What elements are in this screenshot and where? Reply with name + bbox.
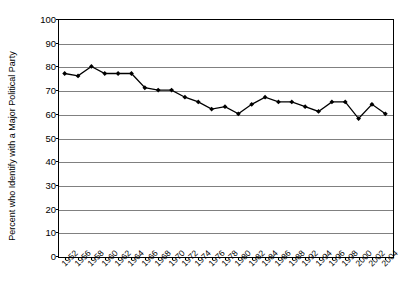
y-axis-tick-label: 70 (4, 86, 56, 95)
y-axis-tick-label: 40 (4, 157, 56, 166)
y-axis-tick-label: 10 (4, 228, 56, 237)
data-point-marker (156, 88, 161, 93)
data-point-marker (209, 107, 214, 112)
data-point-marker (116, 71, 121, 76)
data-point-marker (289, 100, 294, 105)
data-point-marker (303, 104, 308, 109)
y-axis-tick-label: 80 (4, 62, 56, 71)
series-polyline (65, 66, 386, 118)
y-axis-tick-label: 20 (4, 204, 56, 213)
y-axis-tick-label: 100 (4, 15, 56, 24)
data-point-marker (62, 71, 67, 76)
data-point-marker (196, 100, 201, 105)
data-point-marker (169, 88, 174, 93)
data-series-line (58, 19, 392, 256)
y-axis-tick-label: 50 (4, 133, 56, 142)
y-axis-tick-label: 0 (4, 252, 56, 261)
data-point-marker (223, 104, 228, 109)
line-chart: Percent who Identify with a Major Politi… (0, 0, 401, 292)
y-axis-tick-label: 60 (4, 109, 56, 118)
y-axis-tick-label: 90 (4, 38, 56, 47)
data-point-marker (102, 71, 107, 76)
data-point-marker (183, 95, 188, 100)
y-axis-tick-group: 1009080706050403020100 (0, 19, 56, 256)
y-axis-tick-label: 30 (4, 180, 56, 189)
data-point-marker (276, 100, 281, 105)
data-point-marker (263, 95, 268, 100)
